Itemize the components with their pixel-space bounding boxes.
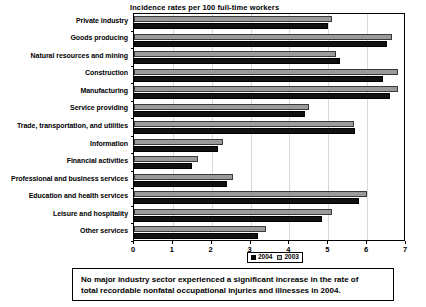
bar-2003 xyxy=(134,104,309,110)
bar-group xyxy=(134,189,404,207)
bar-2003 xyxy=(134,191,367,197)
bar-group xyxy=(134,154,404,172)
x-tick xyxy=(133,241,134,244)
bar-group xyxy=(134,207,404,225)
x-tick-label: 1 xyxy=(170,245,174,254)
note-line-1: No major industry sector experienced a s… xyxy=(81,274,385,285)
bar-2004 xyxy=(134,128,355,134)
x-tick xyxy=(405,241,406,244)
category-label: Natural resources and mining xyxy=(31,52,128,59)
legend-label-2004: 2004 xyxy=(258,254,272,261)
legend-swatch-2004 xyxy=(251,255,256,260)
bar-2004 xyxy=(134,93,390,99)
legend-swatch-2003 xyxy=(277,255,282,260)
x-tick-label: 5 xyxy=(325,245,329,254)
bar-2004 xyxy=(134,163,192,169)
category-label: Private industry xyxy=(76,17,128,24)
category-label: Trade, transportation, and utilities xyxy=(17,122,128,129)
bar-2004 xyxy=(134,146,218,152)
legend-item-2003: 2003 xyxy=(277,254,298,261)
bar-2004 xyxy=(134,23,328,29)
bar-group xyxy=(134,224,404,242)
bar-2004 xyxy=(134,233,258,239)
bar-2003 xyxy=(134,121,354,127)
legend-label-2003: 2003 xyxy=(284,254,298,261)
bar-2003 xyxy=(134,209,332,215)
x-tick xyxy=(211,241,212,244)
x-tick xyxy=(172,241,173,244)
bar-group xyxy=(134,67,404,85)
category-label: Manufacturing xyxy=(80,87,128,94)
summary-note-box: No major industry sector experienced a s… xyxy=(72,268,394,301)
bar-2003 xyxy=(134,86,398,92)
bar-group xyxy=(134,119,404,137)
chart-legend: 2004 2003 xyxy=(247,252,303,263)
incidence-rate-chart: Incidence rates per 100 full-time worker… xyxy=(0,0,426,307)
category-label: Other services xyxy=(80,227,128,234)
category-label: Goods producing xyxy=(70,34,128,41)
bars-layer xyxy=(134,14,404,240)
x-tick xyxy=(366,241,367,244)
x-tick-label: 6 xyxy=(364,245,368,254)
bar-group xyxy=(134,84,404,102)
x-tick xyxy=(327,241,328,244)
chart-title: Incidence rates per 100 full-time worker… xyxy=(130,3,279,12)
bar-group xyxy=(134,32,404,50)
bar-2004 xyxy=(134,181,227,187)
x-tick-label: 0 xyxy=(131,245,135,254)
category-label: Leisure and hospitality xyxy=(53,210,128,217)
bar-group xyxy=(134,14,404,32)
category-label: Financial activities xyxy=(67,157,128,164)
bar-group xyxy=(134,137,404,155)
bar-2004 xyxy=(134,76,383,82)
category-label: Service providing xyxy=(70,104,128,111)
category-axis-labels: Private industryGoods producingNatural r… xyxy=(0,13,131,241)
bar-2003 xyxy=(134,16,332,22)
bar-2003 xyxy=(134,34,392,40)
bar-2004 xyxy=(134,198,359,204)
category-label: Information xyxy=(90,140,128,147)
bar-2004 xyxy=(134,216,322,222)
bar-2003 xyxy=(134,174,233,180)
x-tick-label: 7 xyxy=(403,245,407,254)
bar-group xyxy=(134,102,404,120)
category-label: Professional and business services xyxy=(11,175,128,182)
bar-2003 xyxy=(134,51,336,57)
bar-2003 xyxy=(134,139,223,145)
bar-group xyxy=(134,49,404,67)
x-tick xyxy=(288,241,289,244)
bar-2004 xyxy=(134,111,305,117)
plot-area xyxy=(133,13,405,241)
category-label: Education and health services xyxy=(29,192,128,199)
bar-2004 xyxy=(134,58,340,64)
x-tick-label: 2 xyxy=(209,245,213,254)
bar-group xyxy=(134,172,404,190)
note-line-2: total recordable nonfatal occupational i… xyxy=(81,285,385,296)
legend-item-2004: 2004 xyxy=(251,254,272,261)
bar-2003 xyxy=(134,69,398,75)
bar-2003 xyxy=(134,226,266,232)
x-tick xyxy=(250,241,251,244)
category-label: Construction xyxy=(85,69,128,76)
bar-2004 xyxy=(134,41,387,47)
bar-2003 xyxy=(134,156,198,162)
